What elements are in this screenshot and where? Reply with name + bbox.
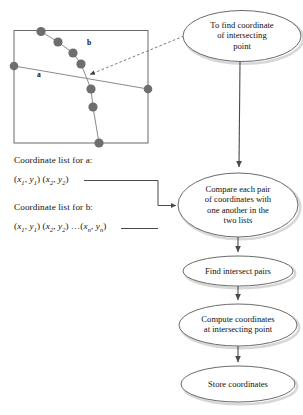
map-rectangle [14,31,148,144]
node-compare-pairs-line-3: one another in the [180,205,296,215]
line-a-label: a [37,70,41,79]
node-find-intersect-pairs-line-1: Find intersect pairs [184,266,292,276]
diagram-canvas: a b Coordinate list for a: (x1, y1) (x2,… [0,0,303,415]
node-store-coordinates-line-1: Store coordinates [184,379,292,389]
coordinate-list-a-values: (x1, y1) (x2, y2) [14,174,69,186]
node-find-intersect-pairs-label: Find intersect pairs [184,266,292,276]
node-compute-coordinates-line-2: at intersecting point [180,324,296,334]
node-compute-coordinates-label: Compute coordinates at intersecting poin… [180,314,296,335]
intersection-pointer [90,36,184,75]
node-compute-coordinates-line-1: Compute coordinates [180,314,296,324]
line-b [36,27,103,148]
coordinate-list-b-values: (x1, y1) (x2, y2) …(xn, yn) [14,221,106,233]
node-find-coordinate-label: To find coordinate of intersecting point [185,20,299,51]
line-b-label: b [87,38,91,47]
node-store-coordinates-label: Store coordinates [184,379,292,389]
node-find-coordinate-line-1: To find coordinate [185,20,299,30]
node-compare-pairs-line-2: of coordinates with [180,194,296,204]
coordinate-list-b-heading: Coordinate list for b: [14,202,93,212]
node-find-coordinate-line-2: of intersecting [185,30,299,40]
node-compare-pairs-line-4: two lists [180,215,296,225]
coordinate-list-a-heading: Coordinate list for a: [14,155,93,165]
node-compare-pairs-label: Compare each pair of coordinates with on… [180,184,296,226]
node-compare-pairs-line-1: Compare each pair [180,184,296,194]
node-find-coordinate-line-3: point [185,41,299,51]
